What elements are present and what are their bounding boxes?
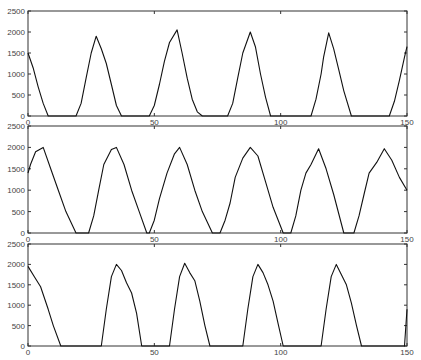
- series-line-panel-1: [28, 30, 407, 116]
- y-tick-label: 1500: [7, 165, 25, 174]
- x-tick-label: 100: [274, 348, 288, 357]
- axes-frame: [28, 244, 407, 346]
- x-tick-label: 0: [26, 235, 31, 244]
- series-line-panel-3: [28, 263, 407, 346]
- y-tick-label: 500: [12, 208, 26, 217]
- axes-frame: [28, 126, 407, 233]
- y-tick-label: 1000: [7, 301, 25, 310]
- panel-1: 05001000150020002500050100150: [7, 7, 414, 127]
- y-tick-label: 500: [12, 91, 26, 100]
- x-tick-label: 100: [274, 235, 288, 244]
- x-tick-label: 150: [400, 235, 414, 244]
- chart-figure: 0500100015002000250005010015005001000150…: [0, 0, 421, 360]
- y-tick-label: 1500: [7, 49, 25, 58]
- y-tick-label: 2500: [7, 122, 25, 131]
- x-tick-label: 50: [150, 235, 159, 244]
- y-tick-label: 500: [12, 322, 26, 331]
- x-tick-label: 50: [150, 348, 159, 357]
- x-tick-label: 0: [26, 348, 31, 357]
- y-tick-label: 2500: [7, 240, 25, 249]
- y-tick-label: 2000: [7, 143, 25, 152]
- y-tick-label: 1000: [7, 186, 25, 195]
- y-tick-label: 2000: [7, 28, 25, 37]
- axes-frame: [28, 11, 407, 116]
- y-tick-label: 1000: [7, 70, 25, 79]
- panel-2: 05001000150020002500050100150: [7, 122, 414, 244]
- y-tick-label: 2500: [7, 7, 25, 16]
- y-tick-label: 1500: [7, 281, 25, 290]
- y-tick-label: 2000: [7, 260, 25, 269]
- series-line-panel-2: [28, 147, 407, 233]
- x-tick-label: 150: [400, 348, 414, 357]
- panel-3: 05001000150020002500050100150: [7, 240, 414, 357]
